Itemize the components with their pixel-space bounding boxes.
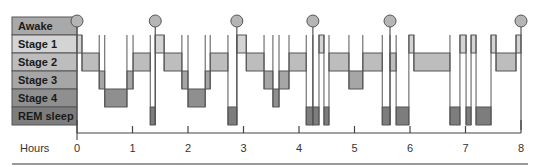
- segment-s2: [133, 53, 150, 71]
- x-tick-label: 8: [518, 142, 524, 154]
- x-tick-label: 0: [74, 142, 80, 154]
- segment-rem: [150, 107, 155, 125]
- segment-s3: [182, 71, 188, 89]
- segment-s4: [105, 89, 127, 107]
- stage-label-awake: Awake: [18, 20, 53, 32]
- stage-label-s3: Stage 3: [18, 74, 57, 86]
- segment-s3: [99, 71, 105, 89]
- x-tick-label: 5: [351, 142, 357, 154]
- x-tick-label: 7: [462, 142, 468, 154]
- x-tick-label: 3: [240, 142, 246, 154]
- segment-s2: [246, 53, 264, 71]
- awakening-marker-icon: [149, 15, 161, 27]
- segment-rem: [476, 107, 491, 125]
- segment-s4: [273, 89, 279, 107]
- stage-label-s4: Stage 4: [18, 92, 58, 104]
- x-tick-label: 6: [407, 142, 413, 154]
- sleep-stage-segments: [77, 35, 521, 125]
- segment-s1: [491, 35, 496, 53]
- segment-s2: [414, 53, 450, 71]
- segment-s2: [390, 53, 396, 71]
- segment-rem: [466, 107, 471, 125]
- x-tick-label: 2: [185, 142, 191, 154]
- segment-s1: [237, 35, 246, 53]
- segment-s2: [363, 53, 382, 71]
- segment-s2: [82, 53, 99, 71]
- segment-s2: [496, 53, 516, 71]
- stage-label-s2: Stage 2: [18, 56, 57, 68]
- segment-rem: [324, 107, 329, 125]
- awakening-marker-icon: [71, 15, 83, 27]
- x-tick-label: 1: [129, 142, 135, 154]
- segment-rem: [228, 107, 237, 125]
- segment-rem: [450, 107, 460, 125]
- segment-s3: [205, 71, 210, 89]
- segment-rem: [306, 107, 313, 125]
- segment-s2: [329, 53, 349, 71]
- segment-s1: [471, 35, 476, 53]
- stage-label-rem: REM sleep: [18, 110, 74, 122]
- segment-s2: [164, 53, 182, 71]
- segment-s2: [210, 53, 228, 71]
- x-axis: Hours 012345678: [20, 120, 524, 154]
- stage-label-panel: AwakeStage 1Stage 2Stage 3Stage 4REM sle…: [12, 17, 77, 125]
- x-tick-label: 4: [296, 142, 302, 154]
- segment-s1: [77, 35, 82, 53]
- segment-rem: [382, 107, 390, 125]
- awakening-marker-icon: [307, 15, 319, 27]
- segment-s1: [516, 35, 521, 53]
- segment-s1: [155, 35, 164, 53]
- awakening-marker-icon: [231, 15, 243, 27]
- stage-label-s1: Stage 1: [18, 38, 57, 50]
- segment-s3: [349, 71, 363, 89]
- segment-s2: [289, 53, 306, 71]
- segment-s1: [409, 35, 414, 53]
- segment-rem: [313, 107, 319, 125]
- segment-s1: [319, 35, 324, 53]
- hypnogram-chart: AwakeStage 1Stage 2Stage 3Stage 4REM sle…: [0, 0, 543, 167]
- awakening-marker-icon: [384, 15, 396, 27]
- segment-s4: [188, 89, 205, 107]
- segment-s1: [460, 35, 466, 53]
- segment-s3: [264, 71, 273, 89]
- segment-s3: [279, 71, 289, 89]
- awakening-marker-icon: [515, 15, 527, 27]
- segment-s3: [127, 71, 133, 89]
- x-axis-title: Hours: [20, 142, 50, 154]
- segment-rem: [396, 107, 409, 125]
